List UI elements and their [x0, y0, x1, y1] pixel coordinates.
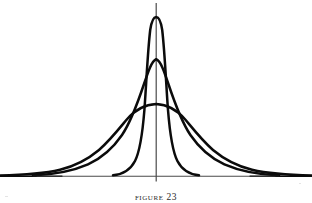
normal-curves-plot — [0, 0, 312, 203]
figure-caption: Figure 23 — [0, 191, 312, 203]
figure-caption-label: Figure — [135, 192, 164, 202]
figure-caption-number: 23 — [166, 192, 177, 202]
figure-container: Figure 23 — [0, 0, 312, 203]
